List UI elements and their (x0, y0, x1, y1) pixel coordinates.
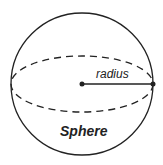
radius-label: radius (96, 67, 129, 81)
sphere-diagram: radius Sphere (0, 0, 163, 165)
center-point (80, 82, 85, 87)
surface-point (151, 82, 156, 87)
sphere-title: Sphere (60, 123, 108, 139)
